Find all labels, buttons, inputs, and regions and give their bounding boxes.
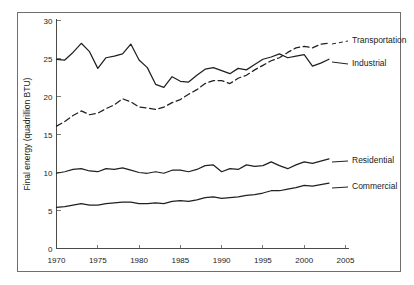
y-tick-label: 20 — [44, 93, 53, 102]
x-tick-label: 1990 — [213, 256, 231, 265]
y-axis-title: Final energy (quadrillion BTU) — [22, 77, 32, 190]
x-tick-label: 2005 — [337, 256, 355, 265]
energy-line-chart: 051015202530 197019751980198519901995200… — [0, 0, 414, 285]
y-tick-label: 15 — [44, 131, 53, 140]
x-tick-label: 1980 — [130, 256, 148, 265]
y-tick-label: 30 — [44, 17, 53, 26]
x-tick-label: 1995 — [254, 256, 272, 265]
x-tick-label: 1970 — [48, 256, 66, 265]
series-label-residential: Residential — [352, 155, 394, 165]
y-tick-label: 25 — [44, 55, 53, 64]
series-label-industrial: Industrial — [352, 58, 387, 68]
chart-outer-frame — [18, 13, 401, 272]
series-label-commercial: Commercial — [352, 181, 397, 191]
y-tick-label: 10 — [44, 169, 53, 178]
x-tick-label: 1985 — [171, 256, 189, 265]
x-tick-label: 2000 — [295, 256, 313, 265]
series-label-transportation: Transportation — [352, 35, 407, 45]
x-tick-label: 1975 — [89, 256, 107, 265]
y-tick-label: 5 — [48, 207, 53, 216]
y-tick-label: 0 — [48, 245, 53, 254]
